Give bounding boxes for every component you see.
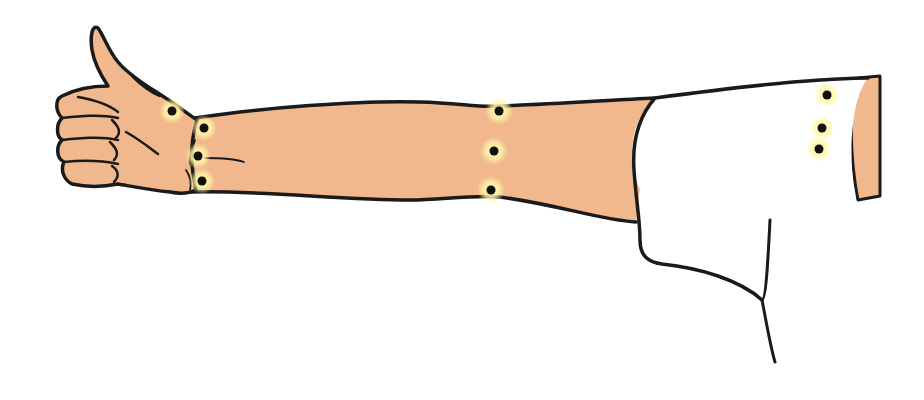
forearm	[190, 98, 655, 222]
point-forearm-middle	[480, 137, 508, 165]
point-forearm-top	[485, 97, 513, 125]
point-upper-arm-top	[814, 82, 840, 108]
arm-drawing	[0, 0, 924, 400]
point-hand-dorsum	[159, 98, 185, 124]
arm-illustration: Arm with thumbs-up hand showing marked p…	[0, 0, 924, 400]
point-wrist-top	[191, 115, 217, 141]
point-wrist-bottom	[189, 168, 215, 194]
point-wrist-middle	[185, 143, 211, 169]
point-forearm-bottom	[477, 176, 505, 204]
point-upper-arm-bottom	[806, 136, 832, 162]
